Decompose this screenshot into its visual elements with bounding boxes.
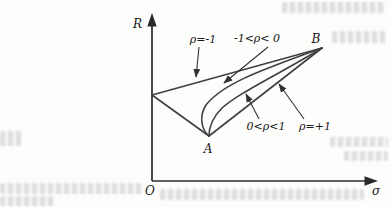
point-a-label: A: [203, 142, 213, 156]
y-axis-label: R: [132, 17, 142, 31]
x-axis-label: σ: [372, 184, 381, 198]
origin-label: O: [145, 184, 155, 198]
figure-page: R σ O A B ρ=-1 -1<ρ< 0 0<ρ<1 ρ=+1: [0, 0, 391, 207]
curve-rho-minus-one-upper: [152, 48, 322, 95]
risk-return-correlation-diagram: R σ O A B ρ=-1 -1<ρ< 0 0<ρ<1 ρ=+1: [0, 0, 391, 207]
point-b-label: B: [311, 32, 321, 46]
y-axis-arrow-icon: [147, 13, 156, 27]
rho-positive-range-label: 0<ρ<1: [247, 120, 286, 133]
curve-rho-minus-one-lower: [152, 95, 209, 136]
rho-negative-range-label: -1<ρ< 0: [234, 32, 280, 45]
rho-plus-one-arrow: [279, 84, 304, 119]
rho-minus-one-label: ρ=-1: [189, 33, 216, 46]
frontier-curves: [152, 48, 322, 136]
rho-minus-one-arrow: [196, 47, 199, 77]
rho-plus-one-label: ρ=+1: [298, 120, 331, 133]
